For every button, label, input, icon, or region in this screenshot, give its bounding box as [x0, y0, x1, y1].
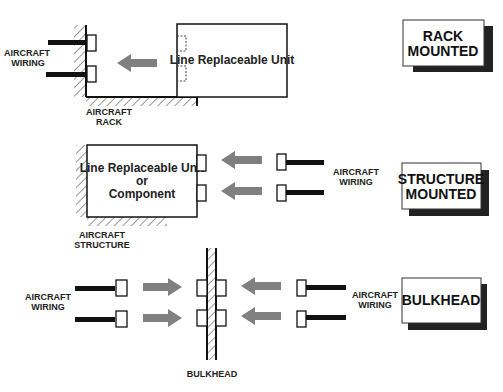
badge-line2: MOUNTED: [408, 43, 479, 59]
aircraft-wire: [75, 317, 115, 322]
badge-line2: MOUNTED: [406, 186, 477, 202]
install-arrow: [117, 54, 157, 72]
aircraft-wire: [46, 72, 86, 77]
badge-line1: STRUCTURE: [398, 171, 484, 187]
rack-mounted-section: Line Replaceable Unit AIRCRAFT WIRING AI…: [4, 20, 493, 127]
aircraft-wire: [75, 286, 115, 291]
rack-connector: [87, 66, 96, 82]
aircraft-wire: [48, 40, 86, 45]
lru-mounting-diagram: Line Replaceable Unit AIRCRAFT WIRING AI…: [0, 0, 503, 392]
right-wiring-label-line2: WIRING: [358, 300, 392, 310]
badge-label: BULKHEAD: [402, 292, 481, 308]
install-arrow: [241, 277, 281, 295]
wire-connector: [277, 185, 286, 201]
component-connector: [197, 185, 206, 201]
left-wiring-label-line1: AIRCRAFT: [25, 292, 71, 302]
bulkhead-section: AIRCRAFT WIRING AIRCRAFT WIRING BULKHEAD…: [25, 248, 487, 379]
bulkhead-connector: [197, 310, 207, 326]
wire-connector: [297, 280, 306, 296]
structure-floor-hatch: [87, 217, 167, 226]
aircraft-wire: [286, 190, 324, 195]
wiring-label-line1: AIRCRAFT: [333, 167, 379, 177]
wire-connector: [297, 311, 306, 327]
component-label-line1: Line Replaceable Unit: [80, 161, 205, 175]
rack-floor-hatch: [86, 97, 196, 106]
wire-connector: [116, 311, 127, 327]
install-arrow: [241, 307, 281, 325]
install-arrow: [143, 309, 182, 327]
structure-wall-hatch: [76, 145, 87, 217]
badge-line1: RACK: [423, 28, 463, 44]
bulkhead-connector: [216, 310, 226, 326]
rack-label-line1: AIRCRAFT: [86, 107, 132, 117]
install-arrow: [221, 182, 262, 200]
aircraft-wire: [286, 160, 324, 165]
bulkhead-label: BULKHEAD: [187, 369, 238, 379]
aircraft-wire: [306, 285, 346, 290]
rack-wall-hatch: [74, 25, 86, 97]
structure-mounted-section: Line Replaceable Unit or Component AIRCR…: [74, 145, 489, 250]
install-arrow: [143, 278, 182, 296]
wire-connector: [277, 154, 286, 170]
wiring-label-line1: AIRCRAFT: [4, 48, 50, 58]
bulkhead-connector: [197, 280, 207, 296]
right-wiring-label-line1: AIRCRAFT: [352, 290, 398, 300]
bulkhead-connector: [216, 280, 226, 296]
component-label-line2: or: [136, 174, 148, 188]
bulkhead-wall-hatch: [207, 248, 216, 360]
rack-connector: [87, 35, 96, 51]
structure-label-line1: AIRCRAFT: [79, 230, 125, 240]
wiring-label-line2: WIRING: [11, 58, 45, 68]
structure-label-line2: STRUCTURE: [74, 240, 130, 250]
component-connector: [197, 155, 206, 171]
rack-label-line2: RACK: [96, 117, 122, 127]
wire-connector: [116, 280, 127, 296]
left-wiring-label-line2: WIRING: [31, 302, 65, 312]
component-label-line3: Component: [109, 187, 176, 201]
lru-label: Line Replaceable Unit: [170, 53, 295, 67]
wiring-label-line2: WIRING: [339, 177, 373, 187]
aircraft-wire: [306, 315, 346, 320]
install-arrow: [221, 151, 262, 169]
